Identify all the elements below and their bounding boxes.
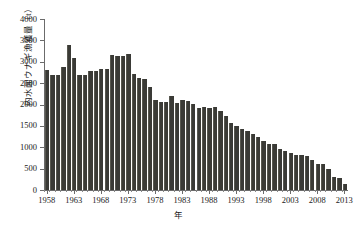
bar	[110, 55, 114, 190]
x-minor-tick	[212, 190, 213, 192]
x-minor-tick	[190, 190, 191, 192]
bar	[218, 111, 222, 190]
bar	[142, 79, 146, 190]
x-minor-tick	[185, 190, 186, 192]
bar	[72, 58, 76, 190]
bar	[83, 75, 87, 190]
x-minor-tick	[98, 190, 99, 192]
x-minor-tick	[141, 190, 142, 192]
x-minor-tick	[255, 190, 256, 192]
bar	[332, 177, 336, 190]
bar	[283, 151, 287, 190]
x-minor-tick	[320, 190, 321, 192]
y-tick-label: 4000	[0, 15, 37, 24]
x-tick-mark	[344, 190, 345, 194]
bar	[105, 69, 109, 190]
x-tick-mark	[236, 190, 237, 194]
bar	[305, 156, 309, 190]
bar	[234, 126, 238, 190]
bar	[261, 141, 265, 190]
bar	[94, 71, 98, 190]
bar	[240, 129, 244, 190]
x-minor-tick	[114, 190, 115, 192]
x-minor-tick	[315, 190, 316, 192]
bar	[159, 102, 163, 190]
x-minor-tick	[71, 190, 72, 192]
bar	[180, 100, 184, 190]
x-minor-tick	[325, 190, 326, 192]
bar	[50, 75, 54, 190]
x-minor-tick	[217, 190, 218, 192]
x-minor-tick	[44, 190, 45, 192]
x-minor-tick	[109, 190, 110, 192]
bar	[337, 178, 341, 190]
x-tick-mark	[74, 190, 75, 194]
bar	[245, 131, 249, 190]
y-tick-label: 1000	[0, 143, 37, 152]
bar	[326, 169, 330, 190]
bar	[272, 144, 276, 190]
bar	[251, 134, 255, 190]
x-minor-tick	[174, 190, 175, 192]
bar	[153, 100, 157, 190]
x-minor-tick	[228, 190, 229, 192]
y-tick-label: 500	[0, 164, 37, 173]
x-minor-tick	[260, 190, 261, 192]
x-minor-tick	[158, 190, 159, 192]
bar	[278, 149, 282, 190]
x-minor-tick	[179, 190, 180, 192]
x-minor-tick	[282, 190, 283, 192]
bar	[61, 67, 65, 190]
bar	[310, 160, 314, 190]
x-minor-tick	[66, 190, 67, 192]
bar	[148, 87, 152, 190]
x-minor-tick	[239, 190, 240, 192]
bar	[294, 155, 298, 190]
x-tick-mark	[155, 190, 156, 194]
x-minor-tick	[342, 190, 343, 192]
x-minor-tick	[336, 190, 337, 192]
bar	[299, 155, 303, 190]
bar	[207, 108, 211, 191]
y-tick-label: 2000	[0, 100, 37, 109]
bar	[169, 96, 173, 190]
bar	[88, 71, 92, 190]
y-tick-label: 3000	[0, 57, 37, 66]
x-minor-tick	[206, 190, 207, 192]
bar	[267, 144, 271, 190]
bar	[321, 164, 325, 190]
x-minor-tick	[87, 190, 88, 192]
bar	[256, 137, 260, 190]
x-minor-tick	[331, 190, 332, 192]
plot-area	[44, 19, 347, 190]
x-minor-tick	[93, 190, 94, 192]
bar	[126, 54, 130, 190]
bar	[67, 45, 71, 190]
x-minor-tick	[163, 190, 164, 192]
x-minor-tick	[125, 190, 126, 192]
x-minor-tick	[223, 190, 224, 192]
x-minor-tick	[120, 190, 121, 192]
x-minor-tick	[309, 190, 310, 192]
x-minor-tick	[244, 190, 245, 192]
x-tick-mark	[317, 190, 318, 194]
x-minor-tick	[304, 190, 305, 192]
x-tick-mark	[128, 190, 129, 194]
x-minor-tick	[60, 190, 61, 192]
bar	[343, 184, 347, 190]
bar	[202, 107, 206, 190]
x-minor-tick	[131, 190, 132, 192]
y-tick-label: 3500	[0, 36, 37, 45]
chart-figure: 内水面ウナギ漁獲量（t） 050010001500200025003000350…	[0, 0, 357, 227]
x-minor-tick	[201, 190, 202, 192]
x-tick-mark	[290, 190, 291, 194]
bar	[164, 102, 168, 190]
bar	[137, 78, 141, 190]
bar	[121, 56, 125, 190]
bar	[115, 56, 119, 190]
x-tick-label: 2013	[324, 196, 357, 205]
bar	[132, 74, 136, 190]
x-minor-tick	[168, 190, 169, 192]
bar	[197, 108, 201, 191]
bar	[316, 164, 320, 190]
